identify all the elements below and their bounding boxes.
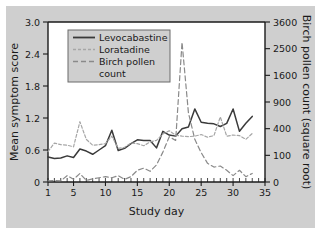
- x-tick-label: 10: [99, 187, 111, 198]
- y2-tick-label: 3600: [273, 17, 297, 28]
- x-tick-label: 5: [71, 187, 77, 198]
- x-tick-label: 25: [195, 187, 207, 198]
- y2-tick-label: 1600: [273, 70, 297, 81]
- y-tick-label: 1.2: [25, 113, 40, 124]
- y2-tick-label: 0: [273, 177, 279, 188]
- y-tick-label: 0: [34, 177, 40, 188]
- x-tick-label: 20: [163, 187, 175, 198]
- x-tick-label: 15: [131, 187, 143, 198]
- y-axis-right-ticks: 0100400900160025003600: [265, 17, 297, 188]
- y-tick-label: 0.6: [25, 145, 40, 156]
- legend: LevocabastineLoratadineBirch pollencount: [68, 30, 170, 82]
- y-tick-label: 1.8: [25, 81, 40, 92]
- y-tick-label: 2.4: [25, 49, 40, 60]
- y-axis-title: Mean symptom score: [8, 43, 21, 161]
- y-tick-label: 3.0: [25, 17, 40, 28]
- y2-tick-label: 2500: [273, 43, 297, 54]
- x-tick-label: 35: [259, 187, 271, 198]
- legend-label-3: count: [99, 68, 126, 79]
- legend-label-2: Birch pollen: [99, 56, 155, 67]
- y-axis-left-ticks: 00.61.21.82.43.0: [25, 17, 48, 188]
- x-tick-label: 1: [45, 187, 51, 198]
- chart-svg: 1510152025303500.61.21.82.43.00100400900…: [0, 0, 321, 242]
- y2-tick-label: 900: [273, 97, 291, 108]
- y2-tick-label: 400: [273, 123, 291, 134]
- figure-container: 1510152025303500.61.21.82.43.00100400900…: [0, 0, 321, 242]
- x-tick-label: 30: [227, 187, 239, 198]
- x-axis-ticks: 15101520253035: [45, 182, 271, 198]
- y2-tick-label: 100: [273, 150, 291, 161]
- y2-axis-title: Birch pollen count (square root): [300, 15, 313, 190]
- legend-label-1: Loratadine: [99, 44, 150, 55]
- x-axis-title: Study day: [129, 205, 185, 218]
- legend-label-0: Levocabastine: [99, 32, 168, 43]
